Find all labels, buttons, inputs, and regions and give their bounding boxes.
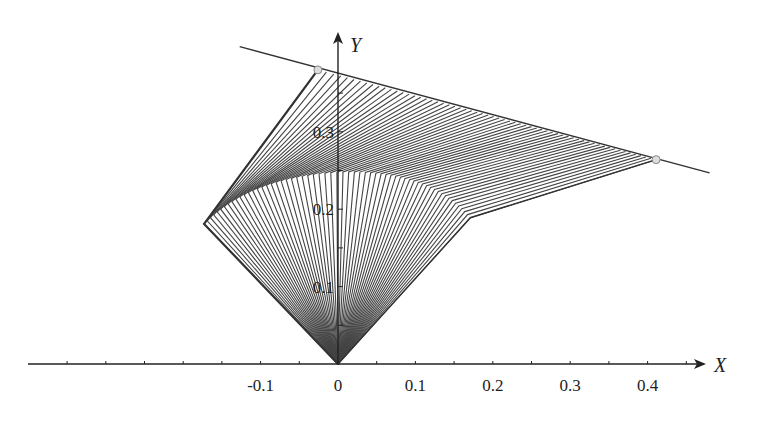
x-tick-label: 0 (334, 376, 343, 395)
ray (338, 146, 605, 364)
y-axis-label: Y (350, 34, 363, 56)
ray (338, 143, 595, 364)
x-tick-label: 0.2 (482, 376, 503, 395)
y-tick-label: 0.3 (313, 123, 334, 142)
x-axis-label: X (713, 354, 727, 376)
point-marker (652, 156, 660, 164)
x-tick-label: 0.1 (405, 376, 426, 395)
x-tick-label: 0.4 (637, 376, 659, 395)
ray-fan (204, 70, 656, 364)
x-tick-label: 0.3 (560, 376, 581, 395)
y-tick-label: 0.2 (313, 200, 334, 219)
ray (338, 154, 636, 364)
x-tick-label: -0.1 (247, 376, 274, 395)
fan-diagram: XY-0.100.10.20.30.40.10.20.3 (0, 0, 761, 421)
ray (338, 139, 579, 364)
ray (338, 150, 620, 364)
y-tick-label: 0.1 (313, 278, 334, 297)
point-marker (314, 66, 322, 74)
